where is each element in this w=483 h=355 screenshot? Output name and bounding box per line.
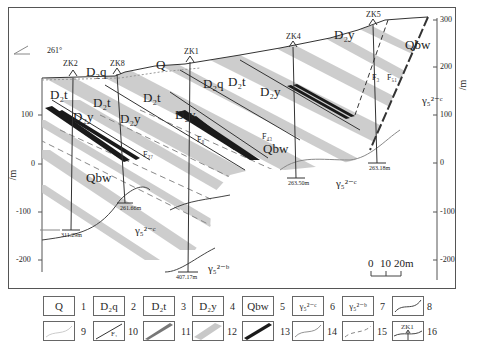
- fault-label-f27: F₂₇: [143, 151, 153, 159]
- curve-light-icon: [43, 321, 75, 341]
- right-tick-0: 0: [440, 159, 444, 167]
- legend-number: 3: [181, 301, 186, 312]
- unit-label-d2y-5: D₂y: [334, 28, 354, 41]
- dark-band-icon: [143, 321, 175, 341]
- unit-label-d2t-3: D₂t: [143, 91, 161, 104]
- unit-label-gamma-2c-3: γ₅²⁻ᶜ: [422, 95, 443, 106]
- right-tick-100: 100: [440, 111, 452, 119]
- unit-label-q: Q: [156, 58, 165, 71]
- scale-tick-10: 10: [380, 258, 391, 269]
- legend-number: 16: [427, 326, 437, 337]
- unit-label-d2t-1: D₂t: [50, 88, 68, 101]
- drill-zk2: ZK2: [63, 60, 78, 68]
- depth-zk8: 261.66m: [120, 205, 141, 211]
- drill-zk1: ZK1: [184, 48, 199, 56]
- left-tick-100: 100: [21, 111, 33, 119]
- unit-label-d2t-2: D₂t: [93, 96, 111, 109]
- dashed-curve-icon: [342, 321, 374, 341]
- unit-label-d2y-1: D₂y: [73, 110, 93, 123]
- unit-label-d2y-2: D₂y: [120, 112, 140, 125]
- legend-number: 4: [230, 301, 235, 312]
- fault-label-f8: F₈: [197, 136, 204, 144]
- left-tick-minus200: -200: [16, 256, 31, 264]
- drill-hole-icon: ZK1: [392, 321, 424, 341]
- fault-label-f51: F₅₁: [387, 74, 397, 82]
- left-tick-0: 0: [31, 160, 35, 168]
- orientation-label: 261°: [47, 47, 62, 55]
- fault-line-icon: F₁: [93, 321, 125, 341]
- legend-symbol: Q: [43, 296, 75, 316]
- legend-number: 15: [377, 326, 387, 337]
- drill-zk8: ZK8: [110, 60, 125, 68]
- legend-symbol: D₂t: [143, 296, 175, 316]
- scale-tick-20m: 20m: [394, 258, 414, 269]
- depth-zk1: 407.17m: [176, 274, 197, 280]
- unit-label-gamma-2c-2: γ₅²⁻ᶜ: [336, 178, 357, 189]
- unit-label-qbw-3: Qbw: [405, 38, 430, 51]
- legend-number: 1: [81, 301, 86, 312]
- unit-label-d2y-4: D₂y: [260, 85, 280, 98]
- drill-zk4: ZK4: [286, 33, 301, 41]
- gray-band-icon: [192, 321, 224, 341]
- black-band-icon: [242, 321, 274, 341]
- right-tick-200: 200: [440, 63, 452, 71]
- legend-number: 13: [280, 326, 290, 337]
- unit-label-qbw-2: Qbw: [263, 142, 288, 155]
- depth-zk4: 263.50m: [288, 180, 309, 186]
- legend-number: 14: [327, 326, 337, 337]
- legend-symbol: D₂y: [192, 296, 224, 316]
- legend-symbol: γ₅²⁻ᵇ: [342, 296, 374, 316]
- legend-symbol: Qbw: [242, 296, 274, 316]
- fault-label-f43: F₄₃: [262, 133, 272, 141]
- svg-text:F₁: F₁: [111, 330, 117, 338]
- legend-symbol: D₂q: [93, 296, 125, 316]
- left-tick-minus100: -100: [16, 208, 31, 216]
- legend-symbol: γ₅²⁻ᶜ: [292, 296, 324, 316]
- curve-thin-icon: [292, 321, 324, 341]
- unit-label-gamma-2c-1: γ₅²⁻ᶜ: [135, 225, 156, 236]
- scale-tick-0: 0: [368, 258, 374, 269]
- legend-number: 12: [227, 326, 237, 337]
- right-tick-300: 300: [440, 16, 452, 24]
- depth-zk2: 311.29m: [61, 232, 82, 238]
- right-tick-minus200: -200: [440, 256, 455, 264]
- right-tick-minus100: -100: [440, 208, 455, 216]
- unit-label-d2q: D₂q: [86, 65, 106, 78]
- legend-number: 5: [280, 301, 285, 312]
- unit-label-d2t-4: D₂t: [228, 75, 246, 88]
- legend-number: 9: [81, 326, 86, 337]
- left-axis-unit: /m: [8, 170, 18, 181]
- unit-label-qbw-1: Qbw: [86, 171, 111, 184]
- unit-label-d2y-3: D₂y: [175, 108, 195, 121]
- legend-number: 10: [128, 326, 138, 337]
- unit-label-d2q-2: D₂q: [203, 77, 223, 90]
- drill-zk5: ZK5: [366, 11, 381, 19]
- legend-number: 7: [380, 301, 385, 312]
- unit-label-gamma-2b: γ₅²⁻ᵇ: [208, 263, 229, 274]
- depth-zk5: 263.18m: [369, 165, 390, 171]
- legend-number: 2: [131, 301, 136, 312]
- right-axis-unit: /m: [458, 80, 468, 91]
- legend-number: 11: [181, 326, 191, 337]
- curve-dark-icon: [392, 296, 424, 316]
- legend-number: 8: [427, 301, 432, 312]
- fault-label-f3: F₃: [372, 74, 379, 82]
- legend-number: 6: [330, 301, 335, 312]
